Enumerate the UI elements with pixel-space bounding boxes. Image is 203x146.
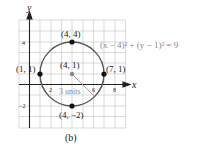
- point-left-label: (1, 1): [16, 64, 36, 74]
- y-tick-neg2: −2: [19, 103, 25, 109]
- center-label: (4, 1): [60, 60, 80, 70]
- radius-label: 3 units: [59, 87, 81, 96]
- point-right-label: (7, 1): [106, 64, 126, 74]
- point-top-label: (4, 4): [61, 29, 81, 39]
- figure-caption: (b): [65, 132, 77, 144]
- x-axis-arrow-icon: [123, 82, 130, 87]
- circle-graph-figure: y x 4 −2 2 6 8 3 units (4, 1) (4, 4) (1,…: [0, 0, 203, 146]
- center-point: [70, 72, 74, 76]
- y-axis-arrow-icon: [27, 12, 32, 19]
- point-bottom: [69, 103, 74, 108]
- x-axis-label: x: [131, 79, 137, 90]
- point-bottom-label: (4, −2): [59, 110, 84, 120]
- circle-equation: (x − 4)² + (y − 1)² = 9: [100, 40, 179, 50]
- y-axis-label: y: [26, 2, 32, 13]
- point-top: [69, 39, 74, 44]
- y-tick-4: 4: [22, 40, 25, 46]
- x-tick-2: 2: [49, 87, 52, 93]
- x-tick-6: 6: [92, 87, 95, 93]
- x-tick-8: 8: [113, 87, 116, 93]
- point-left: [37, 71, 42, 76]
